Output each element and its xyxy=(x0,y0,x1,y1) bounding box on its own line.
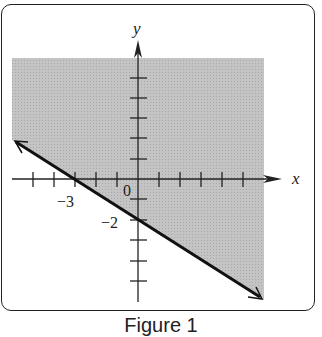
y-intercept-label: −2 xyxy=(101,214,118,231)
x-axis-label: x xyxy=(291,169,300,188)
x-intercept-label: −3 xyxy=(57,193,74,210)
figure-caption: Figure 1 xyxy=(0,314,322,337)
inequality-graph: y x 0 −3 −2 xyxy=(0,0,322,314)
y-axis-label: y xyxy=(131,19,141,38)
origin-label: 0 xyxy=(123,182,131,199)
